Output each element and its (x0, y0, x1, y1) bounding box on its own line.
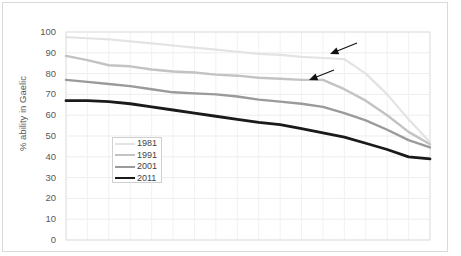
y-tick-label: 50 (30, 131, 56, 141)
legend-label-1981: 1981 (137, 139, 157, 148)
chart-legend: 1981 1991 2001 2011 (112, 137, 162, 183)
y-tick-label: 0 (30, 235, 56, 245)
y-tick-label: 70 (30, 89, 56, 99)
legend-item: 2011 (113, 173, 161, 185)
y-tick-label: 10 (30, 214, 56, 224)
legend-swatch-2011 (115, 177, 135, 179)
legend-item: 1991 (113, 150, 161, 162)
y-tick-label: 90 (30, 48, 56, 58)
legend-item: 1981 (113, 138, 161, 150)
gridlines (66, 32, 430, 240)
y-tick-label: 40 (30, 152, 56, 162)
legend-label-1991: 1991 (137, 151, 157, 160)
arrow-head (330, 47, 339, 54)
y-tick-label: 80 (30, 69, 56, 79)
legend-swatch-1981 (115, 143, 135, 145)
y-tick-label: 60 (30, 110, 56, 120)
arrow-shaft (336, 43, 357, 52)
y-axis-title: % ability in Gaelic (17, 59, 28, 169)
arrow-head (309, 74, 318, 81)
y-tick-label: 20 (30, 193, 56, 203)
legend-swatch-2001 (115, 166, 135, 168)
y-tick-label: 100 (30, 27, 56, 37)
legend-swatch-1991 (115, 154, 135, 156)
legend-item: 2001 (113, 161, 161, 173)
legend-label-2011: 2011 (137, 174, 156, 183)
y-tick-label: 30 (30, 173, 56, 183)
series-line-1991 (66, 56, 430, 144)
chart-figure: % ability in Gaelic 10090807060504030201… (0, 0, 461, 256)
legend-label-2001: 2001 (137, 162, 157, 171)
chart-canvas (0, 0, 461, 256)
